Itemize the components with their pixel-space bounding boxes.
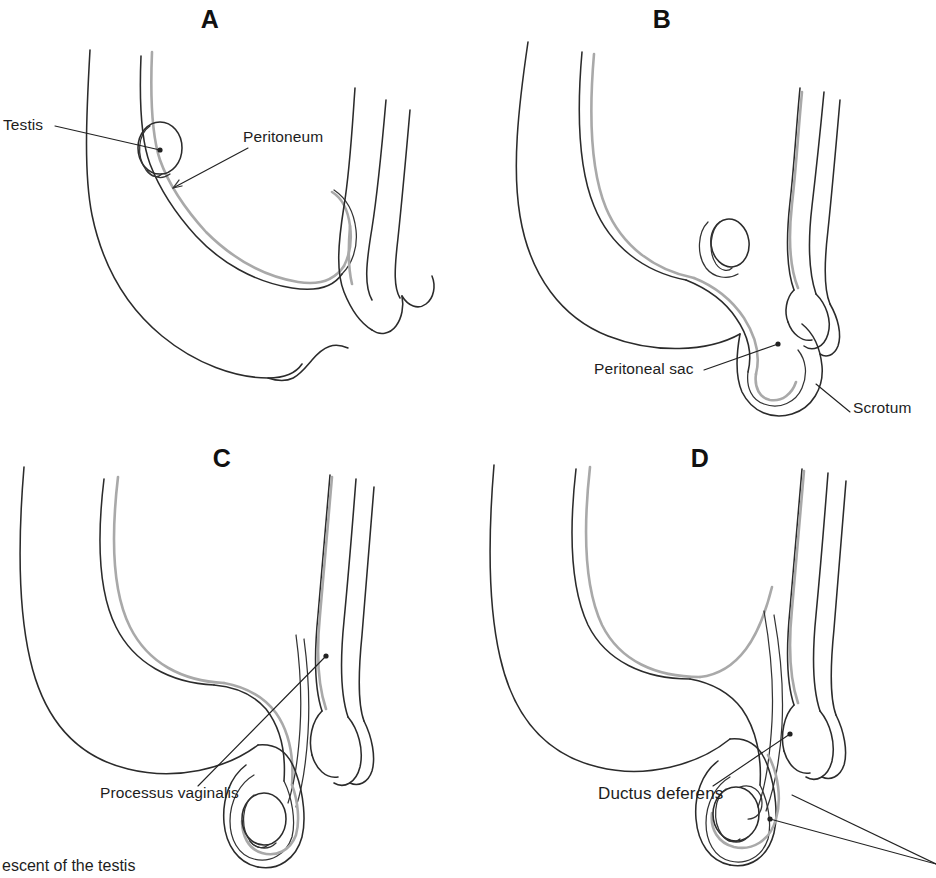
label-peritoneum: Peritoneum <box>243 128 323 146</box>
label-processus-vaginalis: Processus vaginalis <box>100 784 239 802</box>
figure-caption: escent of the testis <box>2 857 135 875</box>
label-ductus-deferens: Ductus deferens <box>598 784 723 804</box>
figure-root: A <box>0 0 936 878</box>
panel-a-drawing <box>0 0 468 439</box>
panel-b: B <box>468 0 936 439</box>
panel-b-drawing <box>468 0 936 439</box>
panel-a: A <box>0 0 468 439</box>
label-testis: Testis <box>3 116 43 134</box>
panel-d-drawing <box>468 439 936 878</box>
panel-c-drawing <box>0 439 468 878</box>
label-scrotum: Scrotum <box>853 399 911 417</box>
panel-c: C <box>0 439 468 878</box>
panel-d: D <box>468 439 936 878</box>
label-peritoneal-sac: Peritoneal sac <box>594 360 694 378</box>
